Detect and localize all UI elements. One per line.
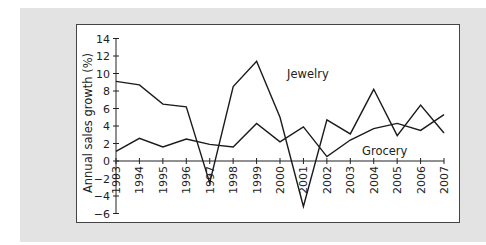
series-labels: JewelryGrocery	[286, 67, 408, 158]
x-tick-label: 2005	[391, 166, 404, 194]
y-tick-label: −4	[94, 190, 110, 203]
x-tick-label: 2002	[321, 166, 334, 194]
y-tick-label: 14	[96, 33, 110, 46]
x-tick-label: 2003	[344, 166, 357, 194]
y-tick-label: 0	[103, 155, 110, 168]
line-chart: −6−4−202468101214 1993199419951996199719…	[0, 0, 486, 245]
y-tick-label: 2	[103, 138, 110, 151]
y-tick-label: 6	[103, 103, 110, 116]
x-tick-label: 1993	[110, 166, 123, 194]
x-tick-label: 2000	[274, 166, 287, 194]
y-axis-title: Annual sales growth (%)	[81, 53, 95, 193]
x-tick-label: 1999	[251, 166, 264, 194]
y-tick-label: 10	[96, 68, 110, 81]
y-tick-label: −6	[94, 208, 110, 221]
x-axis: 1993199419951996199719981999200020012002…	[110, 158, 451, 194]
x-tick-label: 2007	[438, 166, 451, 194]
x-tick-label: 1998	[227, 166, 240, 194]
x-tick-label: 1995	[157, 166, 170, 194]
y-tick-label: −2	[94, 173, 110, 186]
y-tick-label: 4	[103, 120, 110, 133]
x-tick-label: 2004	[368, 166, 381, 194]
x-tick-label: 2006	[415, 166, 428, 194]
series-label-jewelry: Jewelry	[286, 67, 329, 81]
series-label-grocery: Grocery	[362, 144, 408, 158]
x-tick-label: 1996	[180, 166, 193, 194]
y-tick-label: 8	[103, 85, 110, 98]
x-tick-label: 1994	[133, 166, 146, 194]
y-tick-label: 12	[96, 50, 110, 63]
